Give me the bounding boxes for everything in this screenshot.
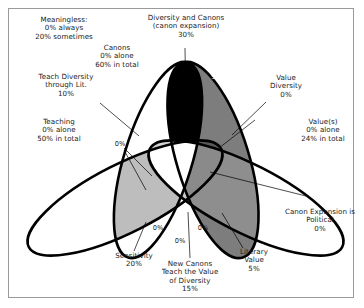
label-meaningless: Meaningless: 0% always 20% sometimes [18,16,110,41]
label-diversity-and-canons: Diversity and Canons (canon expansion) 3… [134,14,238,39]
label-teach-diversity-through-lit: Teach Diversity through Lit. 10% [24,73,108,98]
label-value-diversity: Value Diversity 0% [258,74,314,99]
label-zero-left: 0% [110,141,130,149]
leader-teach-diversity [100,103,139,136]
label-teach-div-line3: 10% [24,90,108,98]
venn-diagram-figure: Meaningless: 0% always 20% sometimes Can… [0,0,364,308]
label-new-canons: New Canons Teach the Value of Diversity … [150,260,230,293]
label-teaching: Teaching 0% alone 50% in total [20,118,98,143]
label-meaningless-line3: 20% sometimes [18,33,110,41]
label-canon-expansion-political: Canon Expansion is Political 0% [280,208,360,233]
label-zero-bottom-left: 0% [148,225,168,233]
label-new-canons-line4: 15% [150,285,230,293]
label-literary-value: Literary Value 5% [228,248,280,273]
label-canons: Canons 0% alone 60% in total [78,44,156,69]
label-values: Value(s) 0% alone 24% in total [288,118,358,143]
label-literary-value-line3: 5% [228,265,280,273]
label-div-canons-line3: 30% [134,31,238,39]
label-value-diversity-line3: 0% [258,91,314,99]
label-teaching-line3: 50% in total [20,135,98,143]
label-canon-political-line3: 0% [280,225,360,233]
label-zero-bottom-center: 0% [170,238,190,246]
leader-new-canons [188,212,190,258]
label-canons-line3: 60% in total [78,61,156,69]
label-zero-bottom-right: 0% [193,225,213,233]
label-values-line3: 24% in total [288,135,358,143]
